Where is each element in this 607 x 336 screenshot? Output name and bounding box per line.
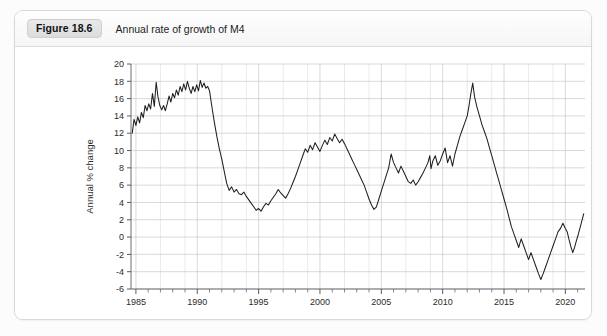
y-tick-label: 0 (119, 232, 124, 242)
y-tick-label: -6 (116, 284, 124, 294)
screenshot-root: Figure 18.6 Annual rate of growth of M4 … (0, 0, 607, 336)
y-tick-labels: -6-4-202468101214161820 (114, 59, 124, 294)
y-axis-title: Annual % change (84, 139, 95, 213)
grid-lines (131, 64, 585, 289)
axis-lines (131, 64, 585, 289)
y-tick-label: 2 (119, 215, 124, 225)
chart-plot-area: -6-4-202468101214161820 1985199019952000… (15, 47, 591, 320)
x-tick-labels: 19851990199520002005201020152020 (126, 297, 575, 307)
x-tick-label: 2000 (310, 297, 330, 307)
x-tick-label: 2020 (555, 297, 575, 307)
y-tick-label: 8 (119, 163, 124, 173)
y-axis-title-text: Annual % change (84, 139, 95, 213)
x-tick-label: 2005 (371, 297, 391, 307)
y-tick-label: 4 (119, 198, 124, 208)
x-tick-label: 2015 (494, 297, 514, 307)
y-tick-label: 12 (114, 128, 124, 138)
figure-header: Figure 18.6 Annual rate of growth of M4 (15, 11, 591, 47)
figure-card: Figure 18.6 Annual rate of growth of M4 … (14, 10, 592, 320)
y-tick-label: 20 (114, 59, 124, 69)
x-tick-label: 2010 (433, 297, 453, 307)
y-tick-label: 6 (119, 180, 124, 190)
data-series (132, 80, 584, 279)
y-tick-label: 18 (114, 77, 124, 87)
y-tick-label: -4 (116, 267, 124, 277)
line-chart: -6-4-202468101214161820 1985199019952000… (15, 47, 591, 320)
y-tick-label: 14 (114, 111, 124, 121)
y-tick-label: -2 (116, 250, 124, 260)
figure-number-badge: Figure 18.6 (27, 19, 102, 39)
y-tick-label: 16 (114, 94, 124, 104)
figure-caption: Annual rate of growth of M4 (116, 23, 245, 35)
y-tick-label: 10 (114, 146, 124, 156)
x-tick-label: 1995 (249, 297, 269, 307)
x-tick-label: 1990 (187, 297, 207, 307)
series-line (132, 80, 584, 279)
x-tick-label: 1985 (126, 297, 146, 307)
